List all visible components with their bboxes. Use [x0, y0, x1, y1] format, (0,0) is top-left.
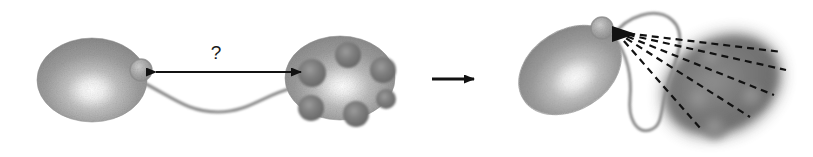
distance-question-label: ? — [211, 42, 222, 63]
diagram-svg: ? — [0, 0, 813, 157]
organelle-bump — [130, 59, 152, 81]
organelle-bump — [591, 17, 613, 39]
figure-canvas: ? — [0, 0, 813, 157]
